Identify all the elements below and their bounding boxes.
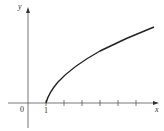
chart-plot: [0, 0, 164, 131]
data-curve: [46, 27, 154, 103]
x-axis-label: x: [155, 106, 159, 114]
y-axis-arrow-icon: [26, 7, 30, 13]
y-axis-label: y: [18, 3, 22, 11]
x-tick-label-1: 1: [44, 107, 48, 115]
origin-label: 0: [20, 106, 24, 114]
